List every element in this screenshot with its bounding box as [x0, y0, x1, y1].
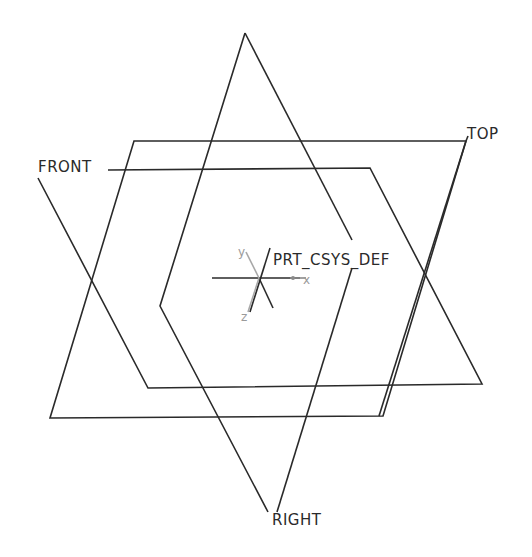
- csys-z-label: z: [241, 310, 247, 324]
- right-plane-outline-outer[interactable]: [245, 33, 352, 240]
- right-plane-outline-far[interactable]: [379, 141, 466, 416]
- csys-y-axis: [246, 252, 259, 278]
- front-plane-label[interactable]: FRONT: [38, 158, 92, 176]
- right-plane-outline-right[interactable]: [277, 268, 352, 512]
- csys-y-label: y: [238, 245, 245, 259]
- datum-plane-front[interactable]: FRONT: [38, 158, 482, 388]
- csys-label[interactable]: PRT_CSYS_DEF: [273, 251, 390, 270]
- top-plane-label[interactable]: TOP: [466, 125, 499, 143]
- model-viewport[interactable]: TOP FRONT RIGHT y x z PRT_CSYS_DEF: [0, 0, 532, 557]
- datum-plane-right[interactable]: RIGHT: [160, 33, 466, 529]
- coordinate-system[interactable]: y x z PRT_CSYS_DEF: [212, 245, 390, 324]
- right-plane-label[interactable]: RIGHT: [272, 511, 322, 529]
- csys-x-label: x: [303, 273, 310, 287]
- csys-secondary-line: [259, 278, 273, 308]
- csys-x-arrow-head: [291, 276, 295, 280]
- right-plane-outline-left[interactable]: [160, 33, 268, 512]
- csys-z-axis: [248, 278, 259, 312]
